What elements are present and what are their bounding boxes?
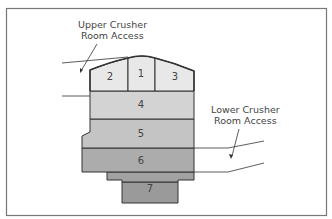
crusher-diagram: 1 2 3 4 5 6 7 Upper Crusher Room Access …: [0, 0, 332, 219]
zone-6-label: 6: [138, 155, 144, 166]
upper-access-label-1: Upper Crusher: [78, 19, 147, 30]
lower-access-label-1: Lower Crusher: [211, 104, 280, 115]
zone-2-label: 2: [107, 71, 113, 82]
zone-7-step: [107, 172, 194, 182]
zone-5-label: 5: [138, 128, 144, 139]
zone-4-label: 4: [138, 99, 144, 110]
upper-access-label-2: Room Access: [81, 30, 144, 41]
zone-7-label: 7: [147, 183, 153, 194]
zone-1-label: 1: [138, 68, 144, 79]
zone-3-label: 3: [172, 71, 178, 82]
lower-access-label-2: Room Access: [214, 115, 277, 126]
